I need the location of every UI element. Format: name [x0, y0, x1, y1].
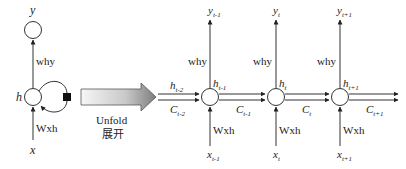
wxh-label: Wxh [213, 124, 235, 136]
step-t-plus-1: yt+1 why ht+1 Wxh xt+1 Ct+1 [317, 4, 398, 163]
folded-why-label: why [36, 55, 55, 67]
incoming-state: ht-2 Ct-2 [158, 79, 199, 118]
c-label: Ct-1 [236, 103, 251, 118]
folded-input-label: x [29, 143, 36, 157]
why-label: why [253, 55, 272, 67]
y-label: yt-1 [207, 4, 221, 19]
folded-wxh-label: Wxh [36, 122, 58, 134]
y-label: yt+1 [336, 4, 352, 19]
unfold-label-en: Unfold [96, 114, 128, 126]
wxh-label: Wxh [343, 124, 365, 136]
c-label: Ct+1 [366, 103, 384, 118]
x-label: xt [272, 148, 281, 163]
c-prev-label: Ct-2 [170, 103, 186, 118]
x-label: xt+1 [336, 148, 352, 163]
wxh-label: Wxh [279, 124, 301, 136]
why-label: why [317, 55, 336, 67]
delay-square-icon [63, 93, 71, 101]
self-loop-bottom [41, 101, 67, 112]
self-loop-top [39, 81, 67, 93]
step-t-minus-1: yt-1 why ht-1 Wxh xt-1 Ct-1 [188, 4, 265, 163]
h-prev-label: ht-2 [170, 79, 184, 94]
folded-output-node [25, 22, 42, 39]
folded-hidden-node [25, 89, 42, 106]
folded-output-label: y [29, 3, 36, 17]
hidden-node [202, 89, 219, 106]
hidden-node [332, 89, 349, 106]
unfold-arrow: Unfold 展开 [81, 83, 156, 140]
h-label: ht+1 [343, 77, 359, 92]
unfold-arrow-shape [81, 83, 156, 111]
c-label: Ct [302, 103, 312, 118]
why-label: why [188, 55, 207, 67]
rnn-unfold-diagram: y why h Wxh x Unfold 展开 ht-2 Ct-2 yt-1 w… [0, 0, 406, 169]
unfold-label-zh: 展开 [102, 128, 124, 140]
y-label: yt [272, 4, 281, 19]
step-t: yt why ht Wxh xt Ct [253, 4, 329, 163]
x-label: xt-1 [206, 148, 220, 163]
hidden-node [268, 89, 285, 106]
folded-rnn: y why h Wxh x [16, 3, 71, 157]
folded-hidden-label: h [16, 90, 22, 104]
